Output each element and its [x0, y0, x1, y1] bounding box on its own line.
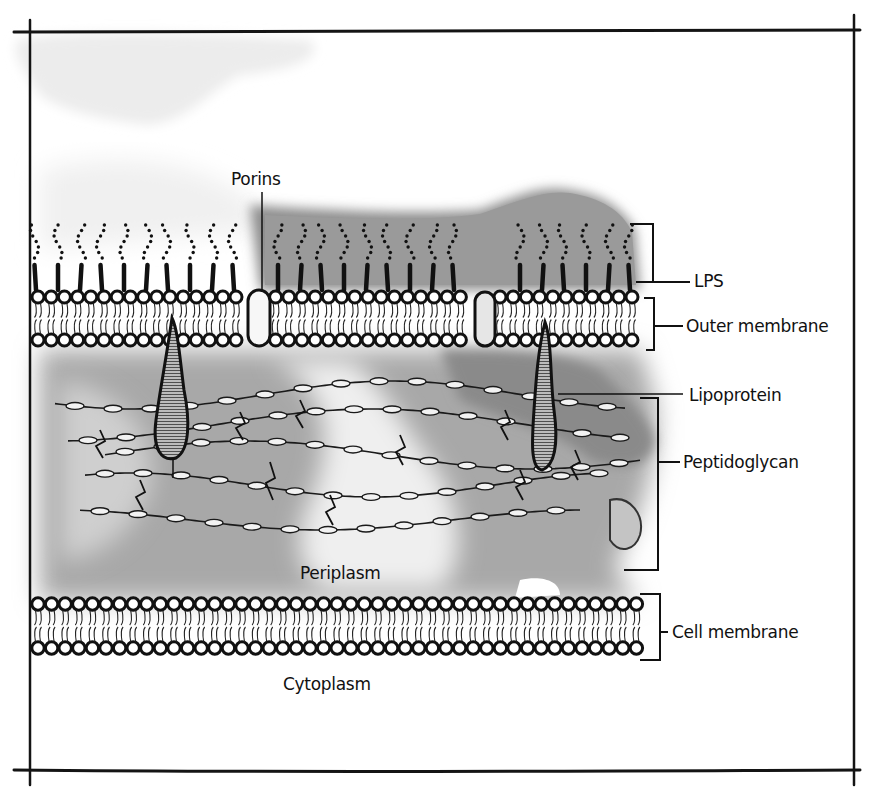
label-periplasm: Periplasm [300, 565, 380, 582]
label-peptidoglycan: Peptidoglycan [683, 454, 799, 471]
porin-2 [475, 292, 495, 346]
label-cell-membrane: Cell membrane [672, 624, 798, 641]
label-lps: LPS [694, 273, 724, 290]
label-outer-membrane: Outer membrane [686, 318, 828, 335]
label-porins: Porins [231, 171, 281, 188]
label-lipoprotein: Lipoprotein [689, 387, 782, 404]
outer-membrane-bracket [644, 298, 654, 350]
cell-membrane-bilayer [32, 598, 643, 654]
watercolor-wash [16, 33, 657, 600]
porin-1 [248, 290, 270, 346]
label-cytoplasm: Cytoplasm [283, 676, 371, 693]
